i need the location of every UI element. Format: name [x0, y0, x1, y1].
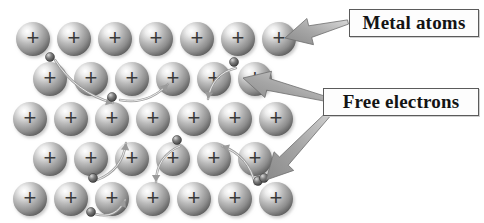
free-electron	[173, 136, 182, 145]
ion-charge-symbol: +	[106, 185, 119, 210]
ion-charge-symbol: +	[229, 185, 242, 210]
ion-charge-symbol: +	[44, 145, 57, 170]
metal-atoms-label-text: Metal atoms	[363, 12, 466, 34]
free-electron	[46, 53, 55, 62]
ion-charge-symbol: +	[65, 185, 78, 210]
ion-charge-symbol: +	[270, 185, 283, 210]
ion-charge-symbol: +	[188, 185, 201, 210]
metal-ion: +	[177, 102, 211, 136]
metal-ion: +	[156, 142, 190, 176]
ion-charge-symbol: +	[191, 25, 204, 50]
free-electron	[108, 93, 117, 102]
ion-charge-symbol: +	[85, 145, 98, 170]
metal-ion: +	[136, 102, 170, 136]
free-electron	[230, 58, 239, 67]
metal-ion: +	[197, 62, 231, 96]
metal-atoms-label: Metal atoms	[349, 9, 479, 37]
electron-drift-arrow-5-head	[152, 175, 160, 182]
metal-ion: +	[259, 182, 293, 216]
ion-charge-symbol: +	[273, 25, 286, 50]
ion-charge-symbol: +	[44, 65, 57, 90]
ion-charge-symbol: +	[68, 25, 81, 50]
metal-ion: +	[95, 182, 129, 216]
metal-ion: +	[33, 62, 67, 96]
free-electrons-label-text: Free electrons	[343, 91, 460, 113]
ion-charge-symbol: +	[208, 145, 221, 170]
ion-charge-symbol: +	[24, 185, 37, 210]
metal-ion: +	[139, 22, 173, 56]
metal-ion: +	[33, 142, 67, 176]
ion-charge-symbol: +	[232, 25, 245, 50]
free-electron	[87, 208, 96, 217]
ion-charge-symbol: +	[147, 185, 160, 210]
metal-ion: +	[180, 22, 214, 56]
metal-ion: +	[57, 22, 91, 56]
metal-ion: +	[136, 182, 170, 216]
free-electrons-arrow-up	[243, 71, 331, 102]
metal-ion: +	[177, 182, 211, 216]
metal-ion: +	[54, 182, 88, 216]
ion-charge-symbol: +	[249, 145, 262, 170]
ion-charge-symbol: +	[188, 105, 201, 130]
ion-charge-symbol: +	[150, 25, 163, 50]
ion-charge-symbol: +	[24, 105, 37, 130]
ion-charge-symbol: +	[147, 105, 160, 130]
metal-ion: +	[74, 142, 108, 176]
metal-ion: +	[221, 22, 255, 56]
metal-ion: +	[74, 62, 108, 96]
metal-ion-group: +++++++++++++++++++++++++++++++++	[13, 22, 296, 216]
metal-ion: +	[95, 102, 129, 136]
free-electrons-label: Free electrons	[323, 88, 479, 116]
ion-charge-symbol: +	[106, 105, 119, 130]
metal-ion: +	[16, 22, 50, 56]
ion-charge-symbol: +	[65, 105, 78, 130]
metal-ion: +	[259, 102, 293, 136]
metal-ion: +	[13, 102, 47, 136]
metal-ion: +	[54, 102, 88, 136]
metal-ion: +	[218, 182, 252, 216]
ion-charge-symbol: +	[270, 105, 283, 130]
metal-ion: +	[98, 22, 132, 56]
ion-charge-symbol: +	[27, 25, 40, 50]
ion-charge-symbol: +	[85, 65, 98, 90]
ion-charge-symbol: +	[229, 105, 242, 130]
ion-charge-symbol: +	[109, 25, 122, 50]
metallic-bonding-figure: +++++++++++++++++++++++++++++++++ Metal …	[0, 0, 484, 223]
metal-ion: +	[13, 182, 47, 216]
metal-ion: +	[115, 62, 149, 96]
metal-ion: +	[218, 102, 252, 136]
free-electron	[89, 174, 98, 183]
ion-charge-symbol: +	[167, 65, 180, 90]
ion-charge-symbol: +	[126, 65, 139, 90]
